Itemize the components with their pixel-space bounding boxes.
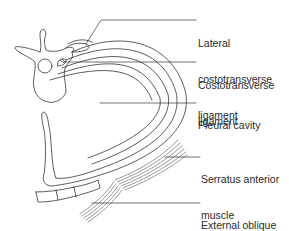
label-line: Costotransverse bbox=[198, 79, 274, 91]
vertebra-drawing bbox=[15, 30, 74, 103]
label-external-oblique-muscle: External oblique muscle bbox=[201, 195, 276, 231]
label-line: External oblique bbox=[201, 219, 276, 231]
external-oblique-drawing bbox=[80, 182, 122, 222]
serratus-anterior-drawing bbox=[115, 140, 187, 190]
label-line: Pleural cavity bbox=[198, 119, 260, 131]
label-line: Lateral bbox=[198, 37, 272, 49]
label-pleural-cavity: Pleural cavity bbox=[198, 95, 260, 143]
label-line: Serratus anterior bbox=[201, 173, 279, 185]
